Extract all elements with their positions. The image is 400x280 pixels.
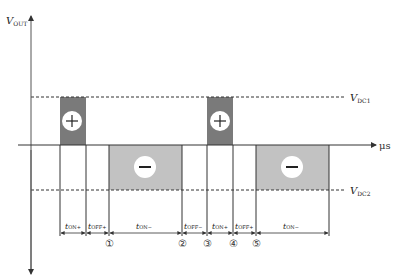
x-axis-unit: μs bbox=[379, 140, 391, 151]
marker-5: ⑤ bbox=[252, 238, 261, 249]
interval-label-ton-plus: tON+ bbox=[65, 222, 81, 231]
interval-label-toff-plus: tOFF+ bbox=[88, 222, 106, 231]
vdc1-label: VDC1 bbox=[350, 92, 370, 104]
marker-1: ① bbox=[105, 238, 114, 249]
minus-icon bbox=[134, 156, 156, 178]
marker-2: ② bbox=[178, 238, 187, 249]
interval-label-ton-minus: tON− bbox=[136, 222, 152, 231]
interval-label-ton-minus-2: tON− bbox=[283, 222, 299, 231]
interval-label-ton-plus-2: tON+ bbox=[212, 222, 228, 231]
y-axis-label: VOUT bbox=[6, 15, 27, 27]
marker-3: ③ bbox=[203, 238, 212, 249]
minus-icon bbox=[281, 156, 303, 178]
interval-label-toff-minus: tOFF− bbox=[184, 222, 202, 231]
marker-4: ④ bbox=[229, 238, 238, 249]
interval-label-toff-plus-2: tOFF+ bbox=[235, 222, 253, 231]
waveform-diagram: VOUT μs VDC1 VDC2 tON+ tOFF+ tON− tOFF− … bbox=[0, 0, 400, 280]
vdc2-label: VDC2 bbox=[350, 185, 371, 197]
plus-icon bbox=[210, 111, 230, 131]
plus-icon bbox=[62, 111, 82, 131]
